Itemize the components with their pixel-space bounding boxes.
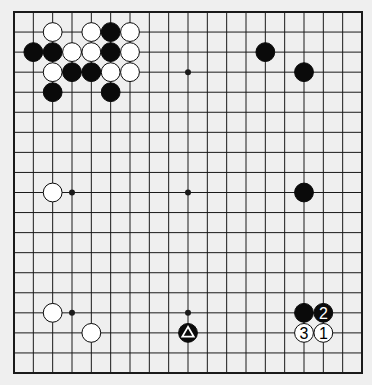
- black-stone: [295, 303, 314, 322]
- black-stone: [101, 23, 120, 42]
- white-stone: [121, 63, 140, 82]
- white-stone: [82, 23, 101, 42]
- white-stone: [101, 63, 120, 82]
- black-stone: [101, 83, 120, 102]
- star-point: [185, 310, 191, 316]
- go-board-diagram: 213: [0, 0, 372, 385]
- white-stone: [82, 43, 101, 62]
- black-stone: [101, 43, 120, 62]
- white-stone: [63, 43, 82, 62]
- black-stone: [179, 323, 198, 342]
- white-stone: [43, 303, 62, 322]
- white-stone: [121, 23, 140, 42]
- black-stone: [82, 63, 101, 82]
- star-point: [69, 190, 75, 196]
- white-stone: 3: [295, 323, 314, 342]
- black-stone: [295, 63, 314, 82]
- black-stone: [43, 43, 62, 62]
- star-point: [185, 190, 191, 196]
- black-stone: [63, 63, 82, 82]
- white-stone: [43, 23, 62, 42]
- white-stone: 1: [314, 323, 333, 342]
- white-stone: [121, 43, 140, 62]
- black-stone: 2: [314, 303, 333, 322]
- move-number-label: 2: [319, 305, 328, 322]
- white-stone: [43, 183, 62, 202]
- black-stone: [295, 183, 314, 202]
- move-number-label: 1: [319, 325, 328, 342]
- black-stone: [43, 83, 62, 102]
- star-point: [185, 69, 191, 75]
- black-stone: [256, 43, 275, 62]
- black-stone: [24, 43, 43, 62]
- white-stone: [43, 63, 62, 82]
- star-point: [69, 310, 75, 316]
- move-number-label: 3: [300, 325, 309, 342]
- white-stone: [82, 323, 101, 342]
- go-board: 213: [0, 0, 372, 385]
